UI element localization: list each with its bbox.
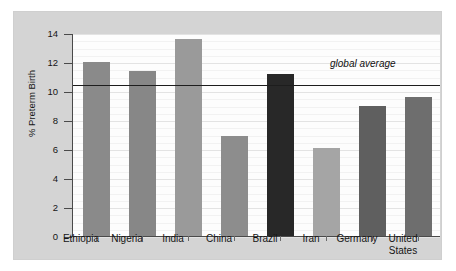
y-axis-tick-label: 4 bbox=[36, 174, 58, 184]
y-axis-tick-label: 12 bbox=[36, 58, 58, 68]
global-average-label: global average bbox=[330, 58, 396, 69]
y-axis-tick-label: 6 bbox=[36, 145, 58, 155]
y-axis-title: % Preterm Birth bbox=[26, 24, 37, 184]
y-axis-tick-label: 8 bbox=[36, 116, 58, 126]
y-axis-tick-label: 10 bbox=[36, 87, 58, 97]
y-axis-tick-label: 14 bbox=[36, 29, 58, 39]
chart-panel: 02468101214 EthiopiaNigeriaIndiaChinaBra… bbox=[14, 12, 441, 259]
x-axis-tick-label: United States bbox=[373, 233, 433, 256]
chart-figure: 02468101214 EthiopiaNigeriaIndiaChinaBra… bbox=[0, 0, 456, 271]
y-axis-tick-label: 2 bbox=[36, 203, 58, 213]
